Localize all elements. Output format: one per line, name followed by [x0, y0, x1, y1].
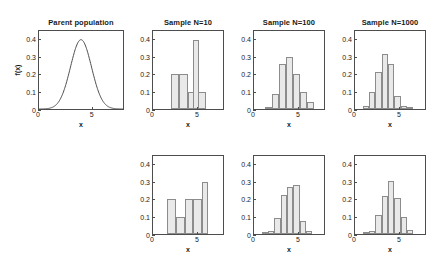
x-tick-label: 0	[150, 236, 154, 243]
x-axis-label: x	[152, 121, 224, 128]
histogram-bar	[193, 40, 198, 109]
y-tick-label: 0.2	[140, 196, 150, 203]
y-tick-label: 0.2	[342, 196, 352, 203]
y-tick-label: 0.4	[26, 35, 36, 42]
histogram-bar	[293, 74, 300, 109]
y-tick-mark	[38, 57, 41, 58]
x-tick-label: 5	[397, 236, 401, 243]
y-tick-label: 0.1	[241, 89, 251, 96]
panel-sample-n100-b: 00.10.20.30.405x	[253, 155, 325, 235]
panel-title: Sample N=1000	[354, 18, 426, 27]
panel-title: Parent population	[38, 18, 124, 27]
x-tick-label: 0	[352, 236, 356, 243]
y-tick-label: 0.1	[342, 89, 352, 96]
x-tick-label: 0	[36, 111, 40, 118]
x-tick-label: 5	[195, 236, 199, 243]
y-tick-label: 0.3	[342, 53, 352, 60]
y-tick-label: 0.2	[241, 196, 251, 203]
y-tick-label: 0.3	[241, 53, 251, 60]
x-tick-mark	[399, 232, 400, 235]
y-tick-label: 0.1	[140, 214, 150, 221]
plot-area	[354, 155, 426, 235]
y-tick-mark	[152, 217, 155, 218]
y-tick-mark	[253, 39, 256, 40]
x-tick-mark	[354, 232, 355, 235]
y-tick-mark	[253, 74, 256, 75]
x-axis-label: x	[38, 121, 124, 128]
y-tick-mark	[38, 92, 41, 93]
histogram-bar	[286, 57, 293, 109]
y-tick-mark	[253, 182, 256, 183]
y-tick-label: 0.2	[140, 71, 150, 78]
y-tick-label: 0.4	[241, 35, 251, 42]
y-tick-mark	[354, 199, 357, 200]
y-tick-mark	[152, 199, 155, 200]
y-tick-label: 0.4	[241, 160, 251, 167]
plot-area	[38, 30, 124, 110]
y-tick-label: 0.3	[140, 53, 150, 60]
y-tick-mark	[354, 217, 357, 218]
panel-title: Sample N=10	[152, 18, 224, 27]
y-tick-label: 0.3	[241, 178, 251, 185]
y-tick-label: 0.4	[140, 160, 150, 167]
histogram-bar	[265, 107, 272, 109]
y-tick-mark	[354, 74, 357, 75]
histogram-bar	[300, 92, 307, 109]
density-curve	[39, 31, 123, 109]
panel-sample-n10-a: Sample N=1000.10.20.30.405x	[152, 30, 224, 110]
x-tick-mark	[298, 107, 299, 110]
x-tick-label: 0	[150, 111, 154, 118]
x-axis-label: x	[354, 121, 426, 128]
x-axis-label: x	[253, 246, 325, 253]
x-tick-mark	[38, 107, 39, 110]
plot-area	[253, 155, 325, 235]
panel-title: Sample N=100	[253, 18, 325, 27]
histogram-bar	[279, 64, 286, 109]
y-tick-label: 0.2	[342, 71, 352, 78]
y-tick-mark	[253, 92, 256, 93]
y-tick-mark	[354, 182, 357, 183]
panel-sample-n1000-a: Sample N=100000.10.20.30.405x	[354, 30, 426, 110]
histogram-bar	[193, 199, 202, 234]
x-tick-label: 5	[397, 111, 401, 118]
x-tick-label: 5	[296, 111, 300, 118]
y-tick-label: 0.3	[140, 178, 150, 185]
x-tick-mark	[399, 107, 400, 110]
y-tick-label: 0.4	[342, 160, 352, 167]
y-tick-mark	[253, 217, 256, 218]
figure-canvas: Parent population00.10.20.30.405xf(x)Sam…	[0, 0, 430, 255]
y-tick-label: 0.4	[342, 35, 352, 42]
y-tick-label: 0.2	[26, 71, 36, 78]
y-tick-label: 0.1	[140, 89, 150, 96]
y-tick-label: 0.4	[140, 35, 150, 42]
y-axis-label: f(x)	[14, 65, 21, 76]
histogram-bar	[407, 107, 413, 109]
x-tick-mark	[92, 107, 93, 110]
plot-area	[152, 155, 224, 235]
x-axis-label: x	[253, 121, 325, 128]
y-tick-label: 0.2	[241, 71, 251, 78]
y-tick-mark	[152, 57, 155, 58]
x-tick-mark	[253, 107, 254, 110]
x-tick-label: 0	[251, 236, 255, 243]
y-tick-mark	[354, 57, 357, 58]
histogram-bar	[407, 230, 413, 234]
y-tick-mark	[253, 199, 256, 200]
histogram-bar	[171, 74, 180, 109]
y-tick-mark	[354, 39, 357, 40]
plot-area	[152, 30, 224, 110]
histogram-bar	[176, 217, 185, 234]
panel-sample-n100-a: Sample N=10000.10.20.30.405x	[253, 30, 325, 110]
histogram-bar	[202, 182, 208, 234]
y-tick-label: 0.3	[342, 178, 352, 185]
y-tick-mark	[152, 92, 155, 93]
panel-sample-n10-b: 00.10.20.30.405x	[152, 155, 224, 235]
x-axis-label: x	[354, 246, 426, 253]
panel-parent-population: Parent population00.10.20.30.405xf(x)	[38, 30, 124, 110]
x-tick-label: 0	[352, 111, 356, 118]
histogram-bar	[185, 199, 194, 234]
y-tick-mark	[152, 182, 155, 183]
plot-area	[354, 30, 426, 110]
y-tick-mark	[152, 39, 155, 40]
y-tick-mark	[253, 164, 256, 165]
